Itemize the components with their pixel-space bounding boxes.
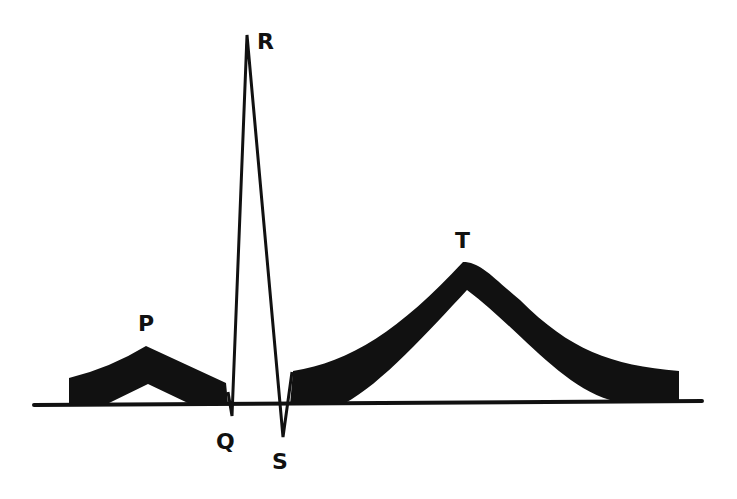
qrs-complex	[228, 35, 292, 437]
label-r: R	[257, 29, 274, 54]
p-wave	[69, 346, 228, 405]
label-q: Q	[216, 429, 235, 454]
ecg-diagram: P R Q S T	[0, 0, 737, 499]
t-wave	[290, 262, 679, 405]
ecg-waveform-graphic: P R Q S T	[0, 0, 737, 499]
label-t: T	[455, 228, 470, 253]
label-p: P	[138, 311, 154, 336]
label-s: S	[272, 449, 288, 474]
isoelectric-baseline	[34, 401, 702, 405]
